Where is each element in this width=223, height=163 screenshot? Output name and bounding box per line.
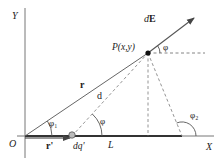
r-label: r [80, 79, 85, 90]
end-dashed [148, 53, 182, 136]
phi1-label: φ₁ [49, 118, 57, 128]
phi-at-P-label: φ [163, 42, 168, 52]
angle-arc-phi-P [158, 46, 160, 53]
point-P-label: P(x,y) [111, 42, 135, 53]
origin-label: O [9, 138, 16, 149]
r-prime-label: r' [46, 140, 53, 151]
r-vector [25, 53, 148, 136]
phi-at-dq-label: φ [100, 116, 105, 126]
angle-arc-phi2 [177, 122, 196, 136]
L-label: L [107, 139, 114, 150]
line-charge-field-diagram: Y X O P(x,y) dE r r' d L dq' φ φ φ₁ φ₂ [0, 0, 223, 163]
dq-label: dq' [73, 141, 86, 151]
d-segment-dashed [72, 53, 148, 136]
x-axis-label: X [205, 141, 213, 152]
dE-label: dE [144, 13, 156, 24]
point-P [145, 50, 150, 55]
phi2-label: φ₂ [190, 110, 198, 120]
dq-element [69, 132, 75, 138]
y-axis-label: Y [12, 10, 19, 21]
d-label: d [97, 90, 102, 101]
